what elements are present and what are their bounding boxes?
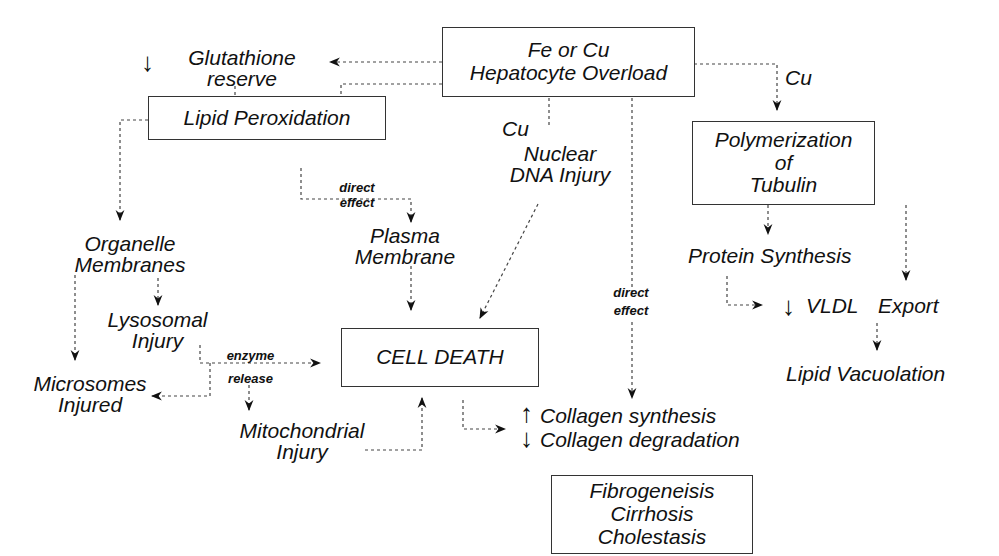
down-arrow-icon: ↓ [520,425,533,451]
node-glutathione-reserve: Glutathione reserve [172,47,312,89]
down-arrow-icon: ↓ [782,293,795,319]
direct-effect-2-line-1: direct [606,284,656,302]
node-lipid-vacuolation: Lipid Vacuolation [786,363,945,384]
enzyme-release-line-1: enzyme [218,345,283,368]
plasma-line-2: Membrane [340,246,470,267]
collagen-line-1: Collagen synthesis [540,405,740,426]
organelle-line-1: Organelle [55,233,205,254]
enzyme-release-line-2: release [218,368,283,391]
plasma-line-1: Plasma [340,225,470,246]
collagen-line-2: Collagen degradation [540,429,740,450]
polymerization-line-1: Polymerization [715,129,853,152]
lysosomal-line-2: Injury [90,330,225,351]
outcome-line-3: Cholestasis [598,526,707,549]
direct-effect-2-line-2: effect [606,302,656,320]
mitochondrial-line-2: Injury [232,441,372,462]
label-direct-effect-plasma: direct effect [332,181,382,211]
down-arrow-icon: ↓ [141,49,154,75]
direct-effect-1-line-2: effect [332,196,382,211]
microsomes-line-1: Microsomes [20,373,160,394]
node-mitochondrial-injury: Mitochondrial Injury [232,420,372,462]
organelle-line-2: Membranes [55,254,205,275]
overload-line-2: Hepatocyte Overload [470,62,667,85]
node-protein-synthesis: Protein Synthesis [688,245,851,266]
label-direct-effect-collagen: direct effect [606,284,656,320]
node-lipid-peroxidation: Lipid Peroxidation [148,96,386,140]
mitochondrial-line-1: Mitochondrial [232,420,372,441]
node-nuclear-dna-injury: Nuclear DNA Injury [500,143,620,185]
node-vldl-export: VLDL Export [806,295,939,316]
label-enzyme-release: enzyme release [218,345,283,391]
node-hepatocyte-overload: Fe or Cu Hepatocyte Overload [442,27,695,97]
glutathione-line-1: Glutathione [172,47,312,68]
outcome-line-1: Fibrogeneisis [590,480,715,503]
outcome-line-2: Cirrhosis [611,503,694,526]
label-cu-polymerization: Cu [785,67,812,88]
node-collagen: Collagen synthesis Collagen degradation [540,405,740,450]
node-microsomes-injured: Microsomes Injured [20,373,160,415]
nuclear-line-1: Nuclear [500,143,620,164]
node-plasma-membrane: Plasma Membrane [340,225,470,267]
lipid-peroxidation-label: Lipid Peroxidation [184,107,351,130]
lysosomal-line-1: Lysosomal [90,309,225,330]
direct-effect-1-line-1: direct [332,181,382,196]
polymerization-line-3: Tubulin [750,174,817,197]
node-polymerization-of-tubulin: Polymerization of Tubulin [692,121,875,205]
microsomes-line-2: Injured [20,394,160,415]
overload-line-1: Fe or Cu [528,39,610,62]
nuclear-line-2: DNA Injury [500,164,620,185]
node-organelle-membranes: Organelle Membranes [55,233,205,275]
polymerization-line-2: of [775,152,793,175]
label-cu-nuclear: Cu [502,118,529,139]
cell-death-label: CELL DEATH [376,346,504,369]
node-fibrogenesis-cirrhosis-cholestasis: Fibrogeneisis Cirrhosis Cholestasis [551,475,753,554]
glutathione-line-2: reserve [172,68,312,89]
node-cell-death: CELL DEATH [341,328,539,387]
node-lysosomal-injury: Lysosomal Injury [90,309,225,351]
